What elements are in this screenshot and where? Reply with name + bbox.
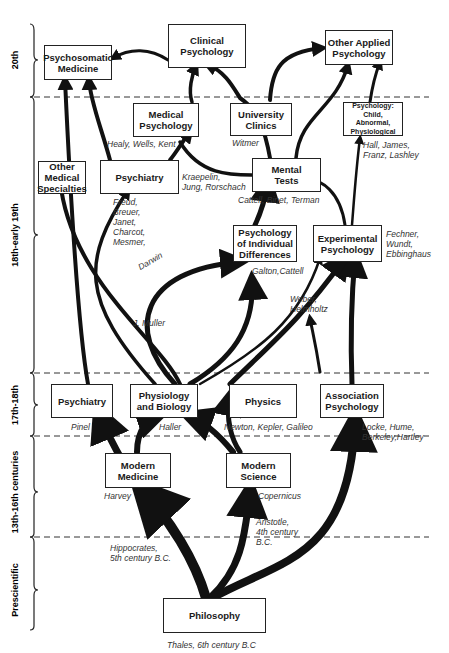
note-weber: Weber, Helmholtz — [290, 294, 328, 314]
note-haller: Haller — [159, 422, 181, 432]
note-copernicus: Copernicus — [258, 491, 301, 501]
note-fechner: Fechner, Wundt, Ebbinghaus — [386, 229, 431, 259]
note-pinel: Pinel — [71, 422, 90, 432]
node-mental-tests: Mental Tests — [252, 158, 321, 192]
node-modern-science: Modern Science — [226, 453, 291, 488]
note-hall: Hall, James, Franz, Lashley — [363, 140, 419, 160]
era-label-20th: 20th — [10, 51, 20, 70]
note-cattell-binet: Cattell, Binet, Terman — [238, 195, 319, 205]
era-bracket-line — [30, 24, 38, 630]
node-experimental-psychology: Experimental Psychology — [313, 225, 382, 262]
era-label-17th: 17th-18th — [10, 385, 20, 425]
note-aristotle: Aristotle, 4th century B.C. — [256, 517, 298, 547]
note-galton: Galton,Cattell — [252, 266, 304, 276]
era-label-18th: 18th-early 19th — [10, 203, 20, 267]
note-witmer: Witmer — [232, 138, 259, 148]
note-freud: Freud, Breuer, Janet, Charcot, Mesmer, — [113, 197, 146, 247]
node-individual-differences: Psychology of Individual Differences — [233, 225, 297, 262]
note-hippocrates: Hippocrates, 5th century B.C. — [110, 543, 171, 563]
lineage-arrows — [60, 48, 380, 598]
node-clinical-psychology: Clinical Psychology — [168, 24, 246, 68]
lineage-diagram: 20th 18th-early 19th 17th-18th 13th-16th… — [0, 0, 449, 653]
note-muller: J. Muller — [133, 318, 165, 328]
node-psychiatry-modern: Psychiatry — [100, 160, 179, 194]
note-newton: Newton, Kepler, Galileo — [224, 422, 313, 432]
note-kraepelin: Kraepelin, Jung, Rorschach — [182, 172, 246, 192]
node-association-psychology: Association Psychology — [320, 384, 384, 418]
node-modern-medicine: Modern Medicine — [105, 453, 171, 488]
node-medical-psychology: Medical Psychology — [133, 103, 199, 137]
node-psychosomatic-medicine: Psychosomatic Medicine — [44, 45, 112, 80]
era-label-13th: 13th-16th centuries — [10, 451, 20, 534]
note-thales: Thales, 6th century B.C — [167, 640, 256, 650]
node-philosophy: Philosophy — [163, 598, 266, 633]
note-healy: Healy, Wells, Kent — [107, 139, 176, 149]
note-locke: Locke, Hume, Berkeley,Hartley — [362, 422, 424, 442]
node-other-applied-psychology: Other Applied Psychology — [325, 30, 393, 65]
node-psychology-child-abnormal: Psychology: Child, Abnormal, Physiologic… — [343, 102, 403, 136]
node-physiology-biology: Physiology and Biology — [130, 384, 198, 418]
note-harvey: Harvey — [104, 491, 131, 501]
node-psychiatry-early: Psychiatry — [51, 384, 113, 418]
node-physics: Physics — [229, 384, 297, 418]
era-label-prescientific: Prescientific — [10, 563, 20, 617]
node-other-medical-specialties: Other Medical Specialties — [38, 161, 86, 194]
node-university-clinics: University Clinics — [230, 103, 292, 136]
